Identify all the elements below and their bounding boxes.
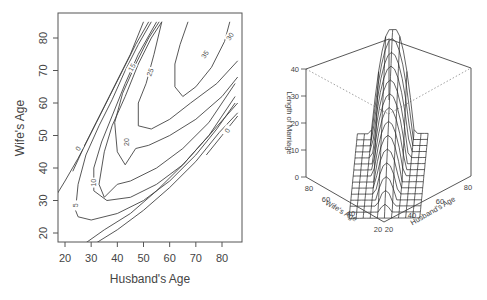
contour-label: 10 (90, 179, 97, 187)
contour-line (175, 22, 230, 97)
x-tick-label: 40 (111, 252, 123, 264)
y-tick-label: 20 (37, 227, 49, 239)
y-tick-label: 40 (37, 162, 49, 174)
contour-line (96, 113, 237, 243)
husband-tick-label: 20 (385, 225, 393, 234)
y-tick-label: 70 (37, 64, 49, 76)
surface-mesh-line (354, 94, 425, 164)
z-tick-label: 40 (291, 65, 299, 74)
y-tick-label: 50 (37, 129, 49, 141)
contour-label: 35 (200, 49, 210, 59)
surface-mesh-line (355, 80, 426, 158)
x-tick-label: 70 (190, 252, 202, 264)
husband-tick-label: 80 (464, 183, 472, 192)
y-tick-label: 30 (37, 194, 49, 206)
x-tick-label: 50 (137, 252, 149, 264)
contour-line (73, 22, 149, 172)
y-tick-label: 80 (37, 32, 49, 44)
z-axis-title: Length of Marriage (285, 92, 294, 155)
surface-mesh-line (399, 71, 407, 218)
z-tick-label: 0 (295, 173, 299, 182)
contour-line (57, 22, 143, 194)
x-axis: 20304050607080 (59, 242, 228, 264)
wife-tick-label: 20 (374, 225, 382, 234)
chart-canvas: 051020152535300 20304050607080 203040506… (0, 0, 487, 300)
box-edge (389, 39, 471, 68)
contour-line (99, 22, 162, 198)
x-tick-label: 60 (164, 252, 176, 264)
y-tick-label: 60 (37, 97, 49, 109)
surface-mesh-line (354, 108, 425, 170)
contour-plot: 051020152535300 20304050607080 203040506… (13, 13, 242, 286)
contour-label: 30 (225, 31, 235, 41)
x-tick-label: 30 (85, 252, 97, 264)
x-tick-label: 20 (59, 252, 71, 264)
contour-line (76, 22, 152, 211)
contour-label: 5 (72, 203, 79, 207)
contour-line (175, 22, 188, 87)
surface-mesh-line (363, 130, 371, 218)
x-axis-title: Husband's Age (110, 272, 191, 286)
wife-tick-label: 80 (305, 184, 313, 193)
contour-label: 20 (123, 138, 130, 146)
contour-labels: 051020152535300 (71, 30, 236, 210)
contour-line (76, 103, 236, 220)
perspective-plot: 0102030402040608020406080 Length of Marr… (285, 30, 472, 234)
contour-lines (57, 22, 238, 243)
persp-box-back (306, 68, 471, 114)
contour-line (125, 77, 238, 165)
x-tick-label: 80 (216, 252, 228, 264)
y-axis-title: Wife's Age (13, 100, 27, 157)
y-axis: 20304050607080 (37, 32, 58, 239)
box-edge (306, 39, 389, 69)
